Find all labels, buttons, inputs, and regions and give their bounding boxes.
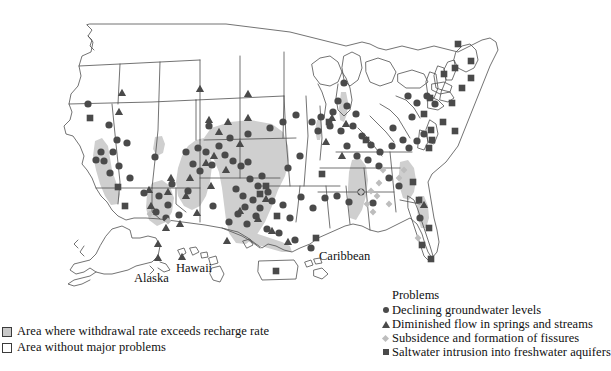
problems-legend-label-saltwater: Saltwater intrusion into freshwater aqui… (392, 346, 611, 359)
problems-legend-label-diminished: Diminished flow in springs and streams (392, 318, 593, 331)
problems-legend-item-diminished: Diminished flow in springs and streams (379, 317, 577, 331)
area-legend-item-exceeds: Area where withdrawal rate exceeds recha… (2, 324, 272, 339)
circle-marker-icon (379, 303, 392, 317)
problems-legend-title: Problems (392, 288, 577, 302)
problems-legend-item-declining: Declining groundwater levels (379, 303, 577, 317)
area-legend-item-no-problems: Area without major problems (2, 340, 272, 355)
square-marker-icon (379, 345, 392, 359)
area-legend: Area where withdrawal rate exceeds recha… (2, 324, 272, 356)
triangle-marker-icon (379, 317, 392, 331)
gray-square-swatch-icon (2, 327, 12, 337)
shaded-area-group (93, 92, 429, 252)
label-hawaii: Hawaii (176, 262, 212, 275)
area-legend-label-exceeds: Area where withdrawal rate exceeds recha… (17, 325, 269, 338)
problems-legend-item-subsidence: Subsidence and formation of fissures (379, 331, 577, 345)
white-square-swatch-icon (2, 343, 12, 353)
label-alaska: Alaska (134, 272, 169, 285)
problems-legend-label-declining: Declining groundwater levels (392, 304, 541, 317)
diamond-marker-icon (379, 331, 392, 345)
problems-legend-label-subsidence: Subsidence and formation of fissures (392, 332, 579, 345)
area-legend-label-no-problems: Area without major problems (17, 341, 166, 354)
label-caribbean: Caribbean (319, 250, 370, 263)
problems-legend: Problems Declining groundwater levels Di… (379, 288, 577, 359)
problems-legend-item-saltwater: Saltwater intrusion into freshwater aqui… (379, 345, 577, 359)
